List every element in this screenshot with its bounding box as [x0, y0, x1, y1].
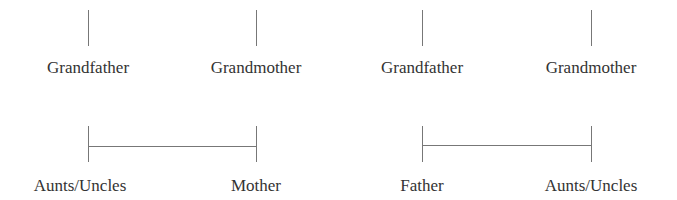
node-maternal-grandmother: Grandmother — [546, 58, 637, 78]
node-father: Father — [400, 176, 443, 196]
sibling-line — [88, 146, 257, 147]
node-maternal-grandfather: Grandfather — [381, 58, 463, 78]
connector-line — [88, 10, 89, 46]
connector-line — [88, 126, 89, 162]
sibling-line — [422, 145, 592, 146]
node-aunts-uncles-left: Aunts/Uncles — [34, 176, 127, 196]
connector-line — [591, 10, 592, 46]
node-aunts-uncles-right: Aunts/Uncles — [545, 176, 638, 196]
node-mother: Mother — [231, 176, 281, 196]
connector-line — [591, 126, 592, 162]
node-paternal-grandmother: Grandmother — [211, 58, 302, 78]
connector-line — [256, 126, 257, 162]
node-paternal-grandfather: Grandfather — [47, 58, 129, 78]
connector-line — [422, 10, 423, 46]
connector-line — [256, 10, 257, 46]
connector-line — [422, 126, 423, 162]
